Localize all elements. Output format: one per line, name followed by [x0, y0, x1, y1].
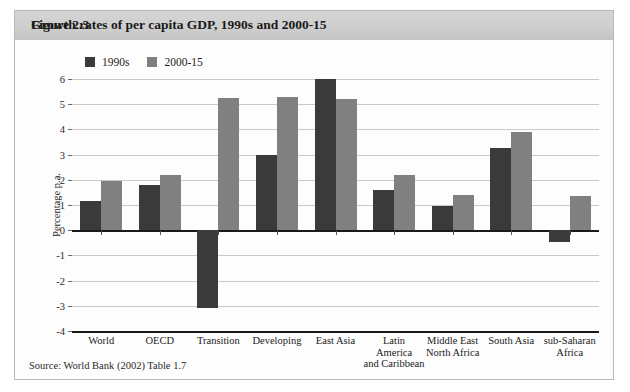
y-tick-label: 6	[25, 74, 65, 85]
gridline	[72, 331, 599, 333]
legend-label: 1990s	[102, 56, 129, 68]
y-tick-mark	[68, 205, 72, 206]
bar[interactable]	[336, 99, 357, 230]
x-tick-mark	[218, 231, 219, 235]
y-tick-mark	[68, 281, 72, 282]
y-tick-label: 0	[25, 225, 65, 236]
x-axis-category-label: OECD	[146, 335, 175, 347]
x-axis-category-line: OECD	[146, 335, 175, 347]
x-axis-category-line: and Caribbean	[364, 358, 425, 370]
bar[interactable]	[373, 190, 394, 230]
x-tick-mark	[277, 231, 278, 235]
y-tick-mark	[68, 331, 72, 332]
x-axis-category-line: Latin	[364, 335, 425, 347]
legend-item-1990s[interactable]: 1990s	[85, 56, 129, 68]
x-axis-category-label: Developing	[252, 335, 301, 347]
bar[interactable]	[394, 175, 415, 230]
bar[interactable]	[549, 230, 570, 241]
figure-title-band: Figure 2.3 Growth rates of per capita GD…	[15, 11, 613, 40]
bar[interactable]	[432, 206, 453, 230]
x-axis-category-line: East Asia	[316, 335, 355, 347]
legend-label: 2000-15	[164, 56, 202, 68]
y-tick-mark	[68, 230, 72, 231]
x-axis-category-line: North Africa	[426, 347, 479, 359]
x-tick-mark	[101, 231, 102, 235]
y-tick-mark	[68, 180, 72, 181]
x-tick-mark	[160, 231, 161, 235]
bar[interactable]	[218, 98, 239, 230]
y-tick-label: 2	[25, 174, 65, 185]
legend-swatch-icon	[147, 57, 157, 67]
figure-container: Figure 2.3 Growth rates of per capita GD…	[14, 10, 614, 380]
y-tick-label: -4	[25, 326, 65, 337]
gridline	[72, 306, 599, 307]
gridline	[72, 281, 599, 282]
y-tick-label: -2	[25, 275, 65, 286]
x-axis-category-line: Africa	[544, 347, 596, 359]
x-axis-category-line: America	[364, 347, 425, 359]
y-tick-mark	[68, 155, 72, 156]
x-axis-category-line: World	[88, 335, 114, 347]
x-axis-category-label: Transition	[197, 335, 240, 347]
bar[interactable]	[101, 181, 122, 230]
y-tick-label: 3	[25, 149, 65, 160]
source-note: Source: World Bank (2002) Table 1.7	[29, 360, 186, 371]
bar[interactable]	[277, 97, 298, 231]
y-tick-mark	[68, 79, 72, 80]
x-axis-category-line: Developing	[252, 335, 301, 347]
y-tick-mark	[68, 129, 72, 130]
bar[interactable]	[511, 132, 532, 230]
figure-title: Growth rates of per capita GDP, 1990s an…	[31, 17, 327, 33]
y-tick-mark	[68, 255, 72, 256]
x-axis-category-label: South Asia	[488, 335, 534, 347]
x-axis-category-line: Middle East	[426, 335, 479, 347]
gridline	[72, 255, 599, 256]
y-tick-label: -1	[25, 250, 65, 261]
x-tick-mark	[453, 231, 454, 235]
x-axis-category-label: World	[88, 335, 114, 347]
x-axis-category-label: sub-SaharanAfrica	[544, 335, 596, 358]
bar[interactable]	[139, 185, 160, 230]
y-tick-label: 1	[25, 200, 65, 211]
bar[interactable]	[256, 155, 277, 231]
bar[interactable]	[490, 148, 511, 230]
x-axis-category-label: East Asia	[316, 335, 355, 347]
y-tick-mark	[68, 306, 72, 307]
y-tick-mark	[68, 104, 72, 105]
bar[interactable]	[570, 196, 591, 230]
gridline	[72, 79, 599, 80]
bar[interactable]	[80, 201, 101, 230]
legend-swatch-icon	[85, 57, 95, 67]
x-axis-category-line: Transition	[197, 335, 240, 347]
x-axis-category-line: sub-Saharan	[544, 335, 596, 347]
plot-area: Percentage p.a. 6543210-1-2-3-4	[72, 79, 599, 331]
x-axis-category-line: South Asia	[488, 335, 534, 347]
plot-canvas: 6543210-1-2-3-4	[72, 79, 599, 331]
x-tick-mark	[570, 231, 571, 235]
x-axis-category-label: LatinAmericaand Caribbean	[364, 335, 425, 370]
x-tick-mark	[394, 231, 395, 235]
y-tick-label: -3	[25, 300, 65, 311]
x-axis-category-label: Middle EastNorth Africa	[426, 335, 479, 358]
chart-legend: 1990s2000-15	[85, 56, 203, 68]
bar[interactable]	[453, 195, 474, 230]
y-tick-label: 4	[25, 124, 65, 135]
bar[interactable]	[160, 175, 181, 230]
bar[interactable]	[197, 230, 218, 308]
y-tick-label: 5	[25, 99, 65, 110]
bar[interactable]	[315, 79, 336, 230]
legend-item-2000-15[interactable]: 2000-15	[147, 56, 202, 68]
x-tick-mark	[511, 231, 512, 235]
x-tick-mark	[336, 231, 337, 235]
